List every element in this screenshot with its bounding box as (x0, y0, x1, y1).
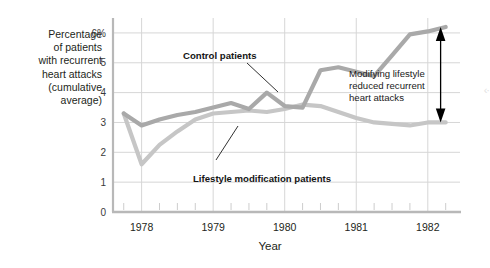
y-axis-tick-5: 5 (100, 57, 106, 68)
annotation-line-2: reduced recurrent (349, 80, 425, 91)
chart-figure: Percentage of patients with recurrent he… (0, 0, 490, 268)
chart-svg: 6%543210 19781979198019811982 Control pa… (0, 0, 490, 268)
annotation-line-1: Modifying lifestyle (349, 68, 425, 79)
x-axis-tick-1981: 1981 (345, 221, 369, 233)
y-axis-tick-3: 3 (100, 117, 106, 128)
series-label-lifestyle-modification-patients: Lifestyle modification patients (193, 173, 331, 184)
y-axis-tick-0: 0 (100, 207, 106, 218)
x-axis-tick-labels: 19781979198019811982 (130, 221, 440, 233)
annotation-line-3: heart attacks (349, 92, 404, 103)
x-axis-tick-1979: 1979 (201, 221, 225, 233)
y-axis-tick-2: 2 (100, 147, 106, 158)
x-axis-tick-1980: 1980 (273, 221, 297, 233)
x-axis-title: Year (258, 240, 281, 252)
x-axis-tick-1982: 1982 (416, 221, 440, 233)
series-label-control-patients: Control patients (183, 50, 257, 61)
y-axis-tick-labels: 6%543210 (92, 28, 107, 218)
x-axis-tick-1978: 1978 (130, 221, 154, 233)
chevron-left-icon: ‹· (484, 84, 489, 96)
y-axis-tick-1: 1 (100, 177, 106, 188)
y-axis-tick-6: 6% (92, 28, 107, 39)
y-axis-tick-4: 4 (100, 87, 106, 98)
